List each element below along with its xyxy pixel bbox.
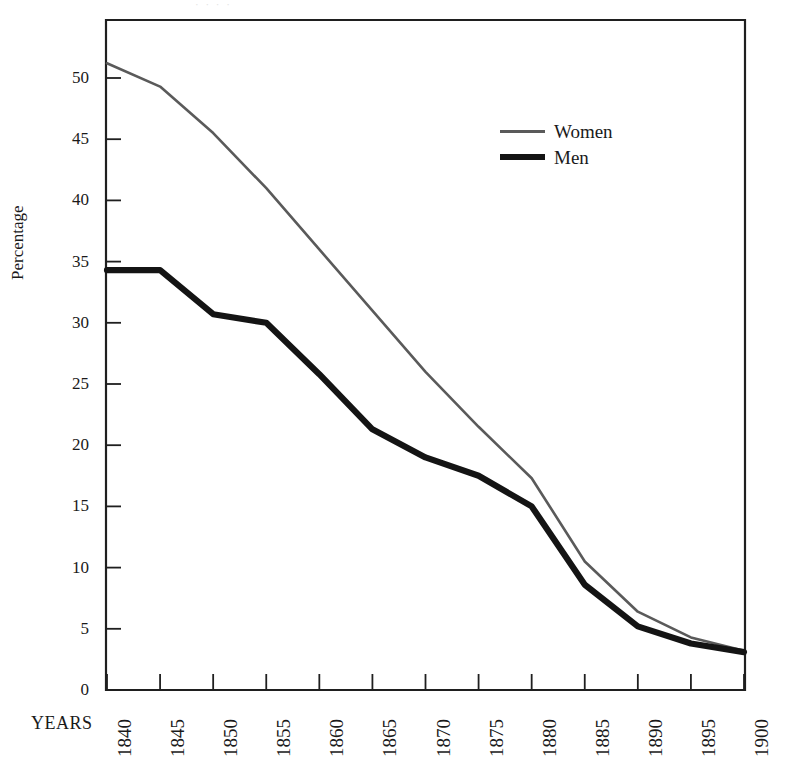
x-tick-label: 1895: [699, 719, 718, 757]
y-tick-label: 40: [49, 191, 89, 208]
y-tick-label: 5: [49, 620, 89, 637]
data-series-group: [107, 63, 744, 652]
y-tick-label: 15: [49, 497, 89, 514]
y-tick-label: 45: [49, 130, 89, 147]
legend-label-men: Men: [554, 148, 589, 167]
plot-frame: [106, 20, 745, 690]
legend-item-men: Men: [500, 144, 613, 170]
x-tick-label: 1875: [487, 719, 506, 757]
legend-swatch-men-icon: [500, 154, 545, 160]
x-tick-label: 1840: [115, 719, 134, 757]
y-tick-label: 25: [49, 375, 89, 392]
y-tick-label: 50: [49, 69, 89, 86]
x-tick-label: 1880: [540, 719, 559, 757]
x-tick-label: 1855: [274, 719, 293, 757]
legend-swatch-women-icon: [500, 130, 545, 133]
chart-figure: · · · · 05101520253035404550 18401845185…: [0, 0, 788, 767]
y-tick-label: 20: [49, 436, 89, 453]
legend-label-women: Women: [554, 122, 613, 141]
x-tick-label: 1845: [168, 719, 187, 757]
y-axis-ticks: [106, 78, 121, 690]
x-tick-label: 1860: [327, 719, 346, 757]
axis-frame: [106, 20, 745, 690]
x-tick-label: 1870: [434, 719, 453, 757]
x-tick-label: 1890: [646, 719, 665, 757]
chart-legend: Women Men: [500, 118, 613, 170]
y-tick-label: 10: [49, 559, 89, 576]
series-line-women: [107, 63, 744, 651]
y-tick-label: 35: [49, 253, 89, 270]
plot-canvas: [0, 0, 788, 767]
y-tick-label: 30: [49, 314, 89, 331]
x-axis-ticks: [107, 674, 744, 690]
x-tick-label: 1865: [380, 719, 399, 757]
x-tick-label: 1850: [221, 719, 240, 757]
x-axis-title: YEARS: [31, 713, 93, 734]
x-tick-label: 1885: [593, 719, 612, 757]
legend-item-women: Women: [500, 118, 613, 144]
y-axis-title: Percentage: [8, 205, 28, 280]
series-line-men: [107, 270, 744, 652]
x-tick-label: 1900: [752, 719, 771, 757]
y-tick-label: 0: [49, 681, 89, 698]
